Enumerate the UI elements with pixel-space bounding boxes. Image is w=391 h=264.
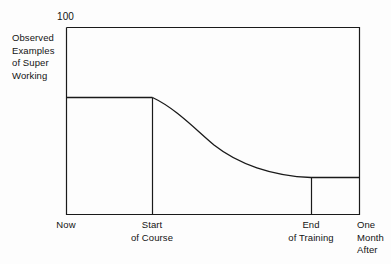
x-tick-label-start-of-course: Start of Course (112, 219, 192, 244)
decay-curve (153, 98, 312, 178)
y-axis-max-label: 100 (57, 11, 74, 24)
y-axis-title: Observed Examples of Super Working (12, 32, 55, 82)
x-tick-label-one-month-after: One Month After (357, 219, 391, 257)
super-working-decay-chart: 100 Observed Examples of Super Working N… (0, 0, 391, 264)
x-tick-label-now: Now (46, 219, 86, 232)
plot-frame (67, 28, 360, 215)
x-tick-label-end-of-training: End of Training (271, 219, 351, 244)
